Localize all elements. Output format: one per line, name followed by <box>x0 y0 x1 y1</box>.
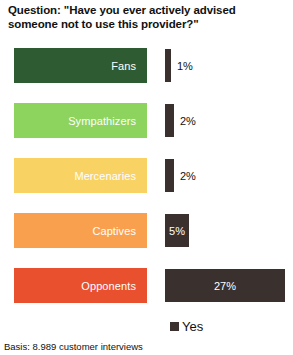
page-title: Question: "Have you ever actively advise… <box>8 3 286 31</box>
category-bar-opponents: Opponents <box>14 268 147 303</box>
value-label-sympathizers: 2% <box>180 103 196 138</box>
value-bar-mercenaries <box>165 159 174 192</box>
value-bar-sympathizers <box>165 104 174 137</box>
category-label-mercenaries: Mercenaries <box>74 170 136 182</box>
chart-legend: Yes <box>170 320 203 333</box>
value-bar-fans <box>165 49 171 82</box>
chart-row-mercenaries: Mercenaries 2% <box>0 158 293 193</box>
category-bar-fans: Fans <box>14 48 147 83</box>
chart-footnote: Basis: 8.989 customer interviews <box>4 341 143 352</box>
category-label-fans: Fans <box>111 60 136 72</box>
chart-row-captives: Captives 5% <box>0 213 293 248</box>
chart-plot-area: Fans 1% Sympathizers 2% Mercenaries 2% C… <box>0 48 293 306</box>
value-label-opponents: 27% <box>214 280 236 292</box>
chart-row-sympathizers: Sympathizers 2% <box>0 103 293 138</box>
chart-row-opponents: Opponents 27% <box>0 268 293 303</box>
value-label-mercenaries: 2% <box>180 158 196 193</box>
chart-row-fans: Fans 1% <box>0 48 293 83</box>
category-label-sympathizers: Sympathizers <box>68 115 136 127</box>
category-bar-mercenaries: Mercenaries <box>14 158 147 193</box>
category-label-captives: Captives <box>92 225 136 237</box>
value-label-fans: 1% <box>177 48 193 83</box>
category-bar-captives: Captives <box>14 213 147 248</box>
category-bar-sympathizers: Sympathizers <box>14 103 147 138</box>
legend-swatch-yes-icon <box>170 322 179 331</box>
value-bar-opponents: 27% <box>165 269 285 302</box>
value-bar-captives: 5% <box>165 214 189 247</box>
legend-label-yes: Yes <box>182 320 203 333</box>
category-label-opponents: Opponents <box>81 280 136 292</box>
value-label-captives: 5% <box>169 225 185 237</box>
